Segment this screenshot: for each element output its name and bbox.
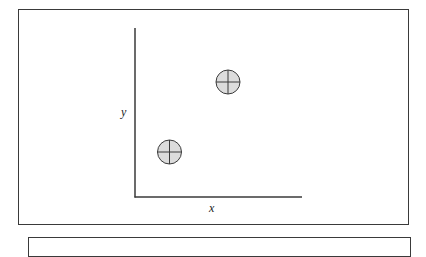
x-axis-label: x [209,202,214,214]
y-axis-label: y [121,106,126,118]
lower-left-marker [158,140,182,164]
upper-right-marker [216,70,240,94]
